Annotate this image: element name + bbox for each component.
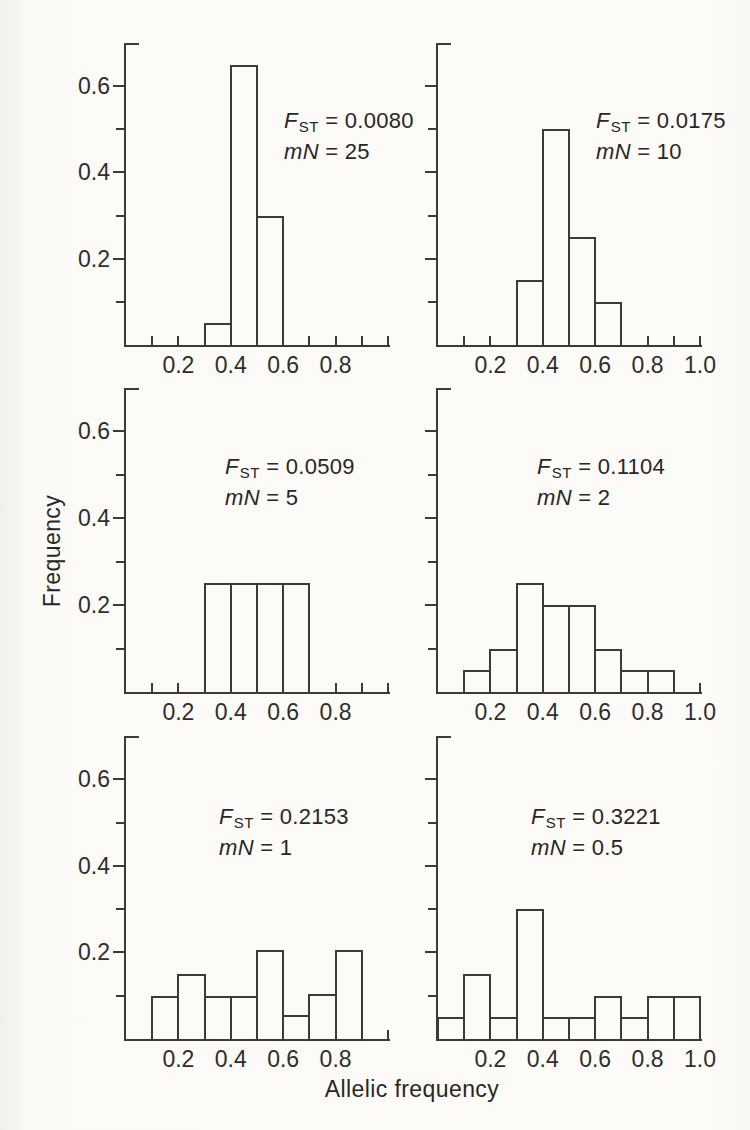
histogram-bar <box>647 996 675 1039</box>
x-tick-label: 0.2 <box>464 1046 516 1072</box>
y-axis-end-tick <box>436 388 451 390</box>
y-tick <box>113 778 124 780</box>
histogram-bar <box>230 583 258 692</box>
y-tick-label: 0.4 <box>58 853 110 879</box>
x-axis-line <box>436 692 702 694</box>
y-axis-line <box>436 388 438 694</box>
x-tick-label: 0.4 <box>205 1046 257 1072</box>
x-tick-label: 0.4 <box>517 1046 569 1072</box>
x-tick-label: 0.2 <box>152 1046 204 1072</box>
y-tick <box>428 822 436 824</box>
y-axis-line <box>124 388 126 694</box>
histogram-bar <box>335 950 363 1039</box>
y-axis-end-tick <box>124 388 139 390</box>
y-tick <box>425 258 436 260</box>
y-tick <box>425 865 436 867</box>
y-tick-label: 0.6 <box>58 766 110 792</box>
histogram-bar <box>489 649 517 692</box>
x-tick <box>387 1030 389 1039</box>
x-tick-label: 1.0 <box>674 699 726 725</box>
x-tick-label: 0.4 <box>517 352 569 378</box>
fst-mn-annotation: FST = 0.3221mN = 0.5 <box>531 802 661 862</box>
x-tick-label: 0.6 <box>569 1046 621 1072</box>
histogram-bar <box>673 996 701 1039</box>
x-tick-label: 0.6 <box>257 1046 309 1072</box>
histogram-bar <box>177 974 205 1039</box>
y-tick <box>425 604 436 606</box>
histogram-bar <box>282 583 310 692</box>
x-tick-label: 0.6 <box>569 699 621 725</box>
histogram-bar <box>620 1017 648 1039</box>
histogram-bar <box>568 237 596 345</box>
x-tick-label: 0.4 <box>517 699 569 725</box>
histogram-bar <box>542 605 570 692</box>
y-axis-line <box>124 43 126 347</box>
fst-mn-annotation: FST = 0.0080mN = 25 <box>284 106 414 166</box>
histogram-bar <box>594 302 622 345</box>
x-tick-label: 0.6 <box>257 699 309 725</box>
x-tick <box>361 336 363 345</box>
x-tick-label: 0.8 <box>310 1046 362 1072</box>
y-tick <box>113 604 124 606</box>
histogram-bar <box>594 649 622 692</box>
y-axis-end-tick <box>436 736 451 738</box>
x-axis-line <box>124 1039 390 1041</box>
histogram-bar <box>620 670 648 692</box>
histogram-bar <box>230 65 258 345</box>
y-tick <box>425 85 436 87</box>
y-tick <box>428 995 436 997</box>
x-tick-label: 0.8 <box>622 699 674 725</box>
x-tick-label: 0.8 <box>310 352 362 378</box>
x-tick <box>463 336 465 345</box>
y-tick <box>113 430 124 432</box>
fst-value-line: FST = 0.2153 <box>219 802 349 833</box>
x-tick <box>647 336 649 345</box>
y-tick <box>425 430 436 432</box>
x-axis-title: Allelic frequency <box>325 1076 499 1103</box>
fst-mn-annotation: FST = 0.1104mN = 2 <box>537 452 665 512</box>
y-axis-end-tick <box>124 43 139 45</box>
y-tick <box>425 951 436 953</box>
y-tick-label: 0.2 <box>58 592 110 618</box>
y-axis-end-tick <box>124 736 139 738</box>
x-tick <box>151 683 153 692</box>
x-tick-label: 0.6 <box>257 352 309 378</box>
y-tick <box>116 474 124 476</box>
histogram-bar <box>282 1015 310 1039</box>
x-tick <box>489 336 491 345</box>
fst-value-line: FST = 0.1104 <box>537 452 665 483</box>
x-axis-line <box>124 692 390 694</box>
fst-value-line: FST = 0.0175 <box>596 106 726 137</box>
x-tick <box>699 683 701 692</box>
histogram-bar <box>204 996 232 1039</box>
y-axis-line <box>124 736 126 1041</box>
y-tick <box>116 215 124 217</box>
allelic-frequency-histogram-figure: Frequency Allelic frequency 0.20.40.60.2… <box>0 0 750 1130</box>
y-tick-label: 0.4 <box>58 159 110 185</box>
histogram-bar <box>256 950 284 1039</box>
x-tick-label: 0.2 <box>464 699 516 725</box>
y-tick <box>116 908 124 910</box>
y-tick <box>428 648 436 650</box>
y-tick-label: 0.2 <box>58 939 110 965</box>
x-tick-label: 0.2 <box>152 699 204 725</box>
fst-mn-annotation: FST = 0.0509mN = 5 <box>225 452 355 512</box>
x-tick <box>387 683 389 692</box>
x-tick-label: 0.4 <box>205 699 257 725</box>
y-tick <box>116 128 124 130</box>
fst-mn-annotation: FST = 0.0175mN = 10 <box>596 106 726 166</box>
x-tick <box>335 336 337 345</box>
histogram-bar <box>542 1017 570 1039</box>
y-tick <box>113 951 124 953</box>
mn-value-line: mN = 1 <box>219 833 349 862</box>
x-tick <box>177 683 179 692</box>
y-tick <box>113 171 124 173</box>
x-tick-label: 1.0 <box>674 352 726 378</box>
y-tick <box>428 561 436 563</box>
histogram-bar <box>516 583 544 692</box>
x-tick <box>699 336 701 345</box>
histogram-bar <box>594 996 622 1039</box>
y-tick-label: 0.2 <box>58 246 110 272</box>
x-tick <box>361 683 363 692</box>
y-tick <box>425 778 436 780</box>
